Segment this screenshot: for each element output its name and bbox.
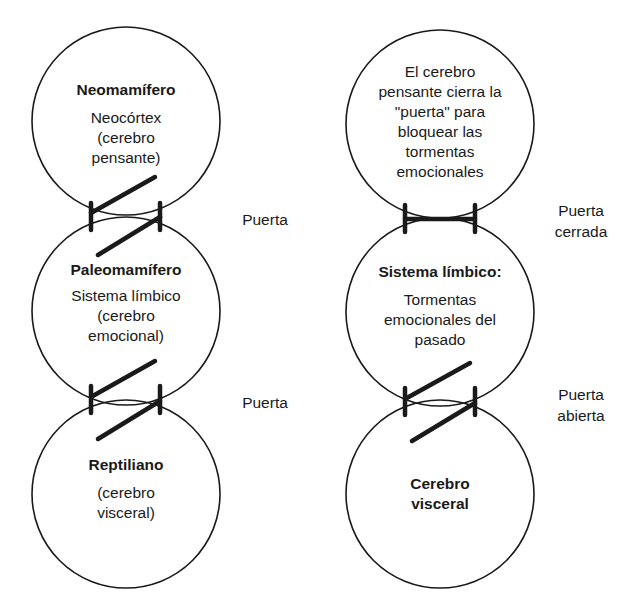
left-circle-2-body: Sistema límbico (cerebro emocional) <box>36 286 216 346</box>
left-gate-2-label: Puerta <box>230 392 300 413</box>
left-circle-3-body: (cerebro visceral) <box>36 483 216 523</box>
right-circle-2-title: Sistema límbico: <box>350 262 530 282</box>
right-gate-1-label: Puerta cerrada <box>540 200 622 242</box>
left-gate-1-label: Puerta <box>230 209 300 230</box>
right-circle-3-title: Cerebro visceral <box>350 474 530 514</box>
right-circle-2-body: Tormentas emocionales del pasado <box>350 290 530 350</box>
right-circle-1-body: El cerebro pensante cierra la "puerta" p… <box>350 62 530 182</box>
left-gate-1-open <box>91 177 160 255</box>
left-circle-1-title: Neomamífero <box>36 80 216 100</box>
right-gate-2-label: Puerta abierta <box>540 384 622 426</box>
right-gate-1-closed <box>405 205 475 232</box>
left-circle-3-title: Reptiliano <box>36 455 216 475</box>
left-circle-1-body: Neocórtex (cerebro pensante) <box>36 108 216 168</box>
left-circle-2-title: Paleomamífero <box>36 260 216 280</box>
